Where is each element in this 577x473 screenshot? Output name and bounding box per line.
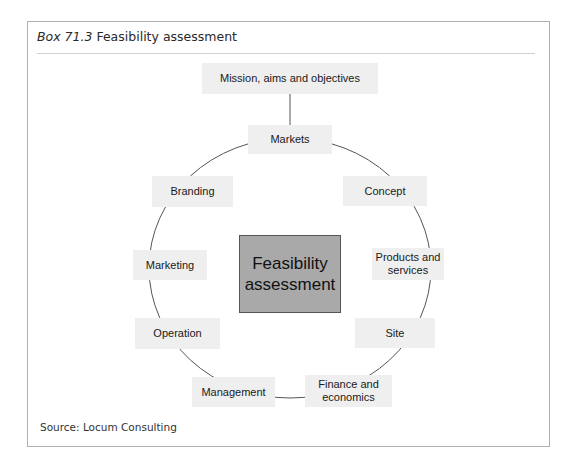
node-site: Site	[355, 318, 435, 348]
center-node-label: Feasibility assessment	[240, 253, 340, 295]
node-operation: Operation	[135, 318, 220, 349]
node-products-label: Products and services	[372, 251, 444, 277]
node-concept: Concept	[343, 176, 427, 206]
node-mission-label: Mission, aims and objectives	[220, 72, 360, 85]
node-marketing: Marketing	[133, 250, 207, 280]
source-note: Source: Locum Consulting	[40, 421, 177, 433]
node-branding: Branding	[152, 176, 233, 207]
node-concept-label: Concept	[365, 185, 406, 198]
center-node: Feasibility assessment	[239, 235, 341, 313]
node-branding-label: Branding	[170, 185, 214, 198]
node-site-label: Site	[386, 327, 405, 340]
node-management-label: Management	[201, 386, 265, 399]
node-mission: Mission, aims and objectives	[202, 63, 378, 94]
node-finance-economics: Finance and economics	[305, 375, 392, 407]
node-markets-label: Markets	[270, 133, 309, 146]
node-marketing-label: Marketing	[146, 259, 194, 272]
node-finance-label: Finance and economics	[305, 378, 392, 404]
node-management: Management	[192, 377, 275, 407]
node-markets: Markets	[248, 125, 332, 154]
node-products-services: Products and services	[372, 248, 444, 280]
node-operation-label: Operation	[153, 327, 201, 340]
